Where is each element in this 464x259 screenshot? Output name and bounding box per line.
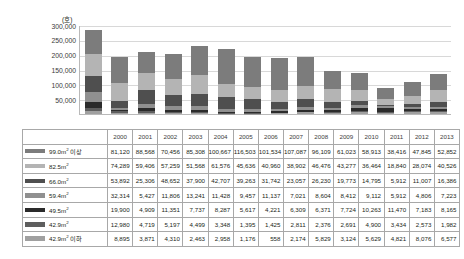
table-cell-value: 47,845: [409, 144, 434, 159]
unit-superscript: 2: [66, 206, 68, 211]
table-cell-value: 70,456: [158, 144, 183, 159]
table-cell-value: 13,241: [183, 188, 208, 203]
bar-segment: [165, 54, 182, 79]
bar-column[interactable]: [138, 52, 155, 114]
table-cell-value: 36,464: [359, 159, 384, 174]
table-cell-value: 558: [258, 232, 283, 247]
bar-column[interactable]: [244, 57, 261, 114]
bar-column[interactable]: [297, 57, 314, 114]
table-row-header: 99.0m2 이상: [23, 144, 108, 159]
table-cell-value: 58,913: [359, 144, 384, 159]
table-year-header: 2002: [158, 130, 183, 145]
unit-superscript: 2: [66, 234, 68, 239]
table-cell-value: 88,568: [133, 144, 158, 159]
table-row-header: 49.5m2: [23, 202, 108, 217]
table-cell-value: 8,604: [309, 188, 334, 203]
table-cell-value: 3,348: [208, 217, 233, 232]
bar-segment: [324, 89, 341, 102]
table-cell-value: 2,811: [283, 217, 308, 232]
table-cell-value: 4,909: [133, 202, 158, 217]
table-cell-value: 4,499: [183, 217, 208, 232]
legend-swatch: [25, 149, 45, 154]
table-row: 82.5m274,28959,40657,25951,56861,57645,6…: [23, 159, 460, 174]
table-cell-value: 19,773: [334, 173, 359, 188]
legend-swatch: [25, 193, 45, 198]
bar-segment: [218, 84, 235, 98]
table-cell-value: 116,503: [233, 144, 258, 159]
legend-swatch: [25, 208, 45, 213]
bar-segment: [351, 73, 368, 90]
table-cell-value: 48,652: [158, 173, 183, 188]
table-year-header: 2009: [334, 130, 359, 145]
chart-page: (호) 300,000250,000200,000150,000100,0005…: [0, 0, 464, 259]
y-axis: 300,000250,000200,000150,000100,00050,00…: [26, 24, 78, 114]
legend-label: 49.5m2: [49, 207, 69, 214]
bar-segment: [138, 90, 155, 104]
bar-segment: [191, 94, 208, 107]
bar-column[interactable]: [324, 71, 341, 114]
table-cell-value: 4,719: [133, 217, 158, 232]
table-cell-value: 8,287: [208, 202, 233, 217]
table-cell-value: 9,112: [359, 188, 384, 203]
stacked-bar-chart: (호) 300,000250,000200,000150,000100,0005…: [0, 0, 464, 128]
table-cell-value: 7,223: [434, 188, 459, 203]
bar-segment: [324, 71, 341, 89]
bar-column[interactable]: [271, 58, 288, 114]
table-cell-value: 59,406: [133, 159, 158, 174]
table-cell-value: 57,259: [158, 159, 183, 174]
table-cell-value: 38,416: [384, 144, 409, 159]
table-cell-value: 23,057: [283, 173, 308, 188]
table-year-header: 2001: [133, 130, 158, 145]
table-header-row: 2000200120022003200420052006200720082009…: [23, 130, 460, 145]
table-cell-value: 5,197: [158, 217, 183, 232]
table-year-header: 2013: [434, 130, 459, 145]
bar-column[interactable]: [404, 82, 421, 114]
bar-column[interactable]: [191, 46, 208, 114]
table-cell-value: 8,412: [334, 188, 359, 203]
table-year-header: 2012: [409, 130, 434, 145]
table-cell-value: 43,277: [334, 159, 359, 174]
bar-segment: [324, 113, 341, 114]
table-cell-value: 7,724: [334, 202, 359, 217]
unit-superscript: 2: [66, 191, 68, 196]
data-table: 2000200120022003200420052006200720082009…: [22, 129, 460, 247]
bar-segment: [138, 52, 155, 73]
bar-segment: [85, 111, 102, 114]
bar-column[interactable]: [85, 30, 102, 114]
legend-label: 66.0m2: [49, 178, 69, 185]
table-cell-value: 18,840: [384, 159, 409, 174]
bar-column[interactable]: [218, 49, 235, 114]
bar-column[interactable]: [351, 73, 368, 115]
unit-superscript: 2: [66, 176, 68, 181]
bar-column[interactable]: [165, 54, 182, 114]
bar-column[interactable]: [111, 57, 128, 114]
table-body: 99.0m2 이상81,12088,56870,45685,308100,667…: [23, 144, 460, 246]
table-cell-value: 37,900: [183, 173, 208, 188]
bar-segment: [271, 102, 288, 109]
table-cell-value: 6,371: [309, 202, 334, 217]
table-cell-value: 4,900: [359, 217, 384, 232]
bar-column[interactable]: [377, 88, 394, 114]
table-cell-value: 12,980: [108, 217, 133, 232]
bar-segment: [165, 95, 182, 106]
table-cell-value: 45,636: [233, 159, 258, 174]
y-axis-tick-label: 150,000: [51, 67, 76, 74]
bar-segment: [165, 113, 182, 114]
table-cell-value: 19,900: [108, 202, 133, 217]
bar-segment: [377, 113, 394, 114]
table-year-header: 2006: [258, 130, 283, 145]
bar-column[interactable]: [430, 74, 447, 114]
bar-segment: [165, 79, 182, 94]
bar-segment: [244, 57, 261, 87]
y-axis-tick-label: 100,000: [51, 82, 76, 89]
table-cell-value: 11,806: [158, 188, 183, 203]
bar-segment: [111, 101, 128, 109]
unit-superscript: 2: [66, 162, 68, 167]
legend-label: 42.9m2 이하: [49, 234, 82, 243]
bar-segment: [297, 57, 314, 86]
table-cell-value: 4,221: [258, 202, 283, 217]
table-cell-value: 5,829: [309, 232, 334, 247]
y-axis-tick-label: 200,000: [51, 52, 76, 59]
bar-segment: [111, 83, 128, 101]
table-cell-value: 2,174: [283, 232, 308, 247]
